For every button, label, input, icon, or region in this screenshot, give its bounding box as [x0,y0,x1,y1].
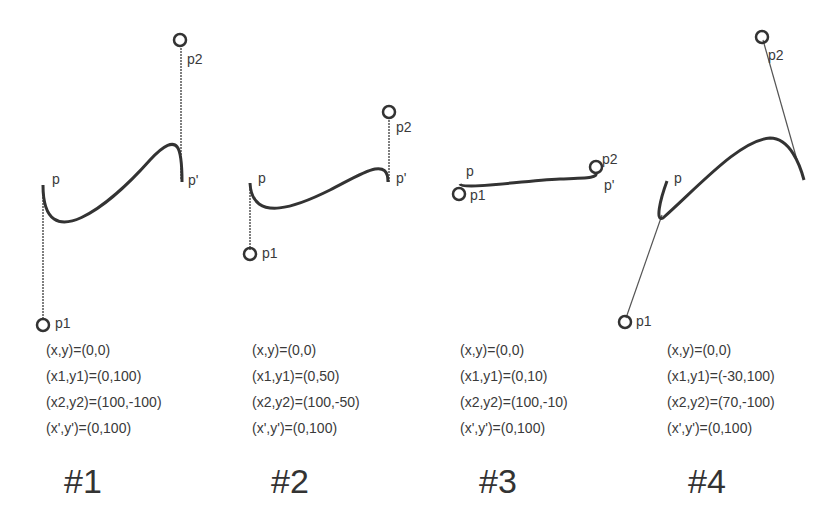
label-p: p [674,170,682,186]
figure-title-4: #4 [688,462,726,501]
formula-line: (x1,y1)=(-30,100) [667,363,775,389]
curve-2 [250,169,388,208]
formula-line: (x2,y2)=(70,-100) [667,389,775,415]
formula-line: (x2,y2)=(100,-100) [46,389,162,415]
formula-line: (x2,y2)=(100,-10) [460,389,568,415]
control-point-p2 [174,34,186,46]
formula-line: (x',y')=(0,100) [460,415,568,441]
formula-block-1: (x,y)=(0,0) (x1,y1)=(0,100) (x2,y2)=(100… [46,337,162,441]
formula-line: (x,y)=(0,0) [252,337,360,363]
label-p2: p2 [768,47,784,63]
label-p2: p2 [187,51,203,67]
label-p1: p1 [470,187,486,203]
figure-title-3: #3 [479,462,517,501]
figure-4: p p1 p2 [619,31,804,329]
figure-title-2: #2 [271,462,309,501]
control-point-p1 [453,188,465,200]
hermite-curves-diagram: p p1 p2 p' p p1 p2 p' p p1 p2 p' p p1 p2 [0,0,840,525]
control-point-p2 [590,161,602,173]
formula-line: (x1,y1)=(0,50) [252,363,360,389]
control-point-p1 [619,316,631,328]
formula-block-3: (x,y)=(0,0) (x1,y1)=(0,10) (x2,y2)=(100,… [460,337,568,441]
formula-line: (x2,y2)=(100,-50) [252,389,360,415]
label-p2: p2 [396,119,412,135]
formula-line: (x',y')=(0,100) [667,415,775,441]
tangent-handle-p1 [626,215,662,318]
label-pprime: p' [604,177,614,193]
formula-line: (x,y)=(0,0) [46,337,162,363]
label-p1: p1 [262,245,278,261]
label-p: p [52,171,60,187]
formula-block-4: (x,y)=(0,0) (x1,y1)=(-30,100) (x2,y2)=(7… [667,337,775,441]
curve-3 [460,172,596,186]
control-point-p1 [37,319,49,331]
curve-1 [43,144,182,222]
label-p2: p2 [602,151,618,167]
formula-line: (x',y')=(0,100) [252,415,360,441]
formula-line: (x1,y1)=(0,10) [460,363,568,389]
label-p: p [258,170,266,186]
control-point-p2 [383,106,395,118]
label-p1: p1 [55,315,71,331]
label-pprime: p' [188,172,198,188]
figure-1: p p1 p2 p' [37,34,203,331]
formula-line: (x,y)=(0,0) [667,337,775,363]
figure-2: p p1 p2 p' [244,106,412,261]
formula-line: (x1,y1)=(0,100) [46,363,162,389]
label-pprime: p' [396,170,406,186]
figure-3: p p1 p2 p' [453,151,618,203]
formula-line: (x',y')=(0,100) [46,415,162,441]
control-point-p2 [756,31,768,43]
formula-block-2: (x,y)=(0,0) (x1,y1)=(0,50) (x2,y2)=(100,… [252,337,360,441]
label-p: p [466,163,474,179]
figure-title-1: #1 [64,462,102,501]
label-p1: p1 [636,313,652,329]
formula-line: (x,y)=(0,0) [460,337,568,363]
